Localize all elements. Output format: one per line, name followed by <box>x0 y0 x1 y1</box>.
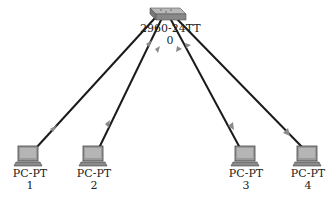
pc-icon[interactable] <box>231 146 259 166</box>
pc-3-id-label: 3 <box>222 180 270 192</box>
switch-icon[interactable] <box>150 8 186 20</box>
pc-icon[interactable] <box>14 146 42 166</box>
pc-4-id-label: 4 <box>284 180 332 192</box>
pc-1-id-label: 1 <box>6 180 54 192</box>
link-status-arrow-icon <box>155 46 160 53</box>
pc-2-id-label: 2 <box>70 180 118 192</box>
switch-id-label: 0 <box>140 35 200 47</box>
pc-icon[interactable] <box>79 146 107 166</box>
pc-icon[interactable] <box>293 146 321 166</box>
topology-canvas[interactable]: 2960-24TT 0 PC-PT 1 PC-PT 2 PC-PT 3 PC-P… <box>0 0 334 204</box>
